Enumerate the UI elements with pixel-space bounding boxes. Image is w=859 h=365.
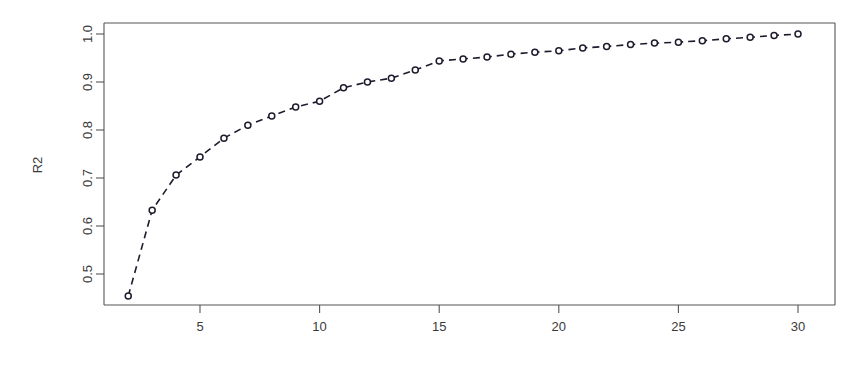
data-point-marker [699, 38, 705, 44]
x-tick-label: 20 [552, 319, 566, 334]
y-tick-label: 0.8 [80, 121, 95, 139]
data-point-marker [747, 34, 753, 40]
r2-series-markers [125, 31, 801, 299]
data-point-marker [269, 113, 275, 119]
data-point-marker [580, 45, 586, 51]
data-point-marker [436, 58, 442, 64]
data-point-marker [795, 31, 801, 37]
data-point-marker [388, 75, 394, 81]
y-tick-label: 0.9 [80, 73, 95, 91]
x-tick-label: 10 [312, 319, 326, 334]
data-point-marker [532, 49, 538, 55]
chart-canvas: 0.50.60.70.80.91.0 51015202530 R2 [0, 0, 859, 365]
data-point-marker [556, 48, 562, 54]
r2-line-chart: 0.50.60.70.80.91.0 51015202530 R2 [0, 0, 859, 365]
data-point-marker [317, 98, 323, 104]
data-point-marker [197, 154, 203, 160]
data-point-marker [651, 40, 657, 46]
data-point-marker [771, 32, 777, 38]
data-point-marker [173, 172, 179, 178]
data-point-marker [341, 85, 347, 91]
data-point-marker [628, 42, 634, 48]
data-point-marker [125, 293, 131, 299]
x-tick-label: 15 [432, 319, 446, 334]
y-axis-ticks: 0.50.60.70.80.91.0 [80, 25, 104, 283]
data-point-marker [508, 51, 514, 57]
y-tick-label: 0.6 [80, 217, 95, 235]
data-point-marker [245, 122, 251, 128]
data-point-marker [604, 43, 610, 49]
x-tick-label: 5 [196, 319, 203, 334]
y-tick-label: 0.5 [80, 265, 95, 283]
data-point-marker [675, 39, 681, 45]
y-tick-label: 0.7 [80, 169, 95, 187]
x-tick-label: 25 [671, 319, 685, 334]
data-point-marker [484, 54, 490, 60]
data-point-marker [364, 79, 370, 85]
data-point-marker [723, 36, 729, 42]
data-point-marker [221, 135, 227, 141]
y-axis-title: R2 [30, 157, 45, 174]
data-point-marker [460, 56, 466, 62]
data-point-marker [149, 207, 155, 213]
x-axis-ticks: 51015202530 [196, 305, 805, 334]
r2-series-line [128, 34, 798, 296]
data-point-marker [412, 67, 418, 73]
x-tick-label: 30 [791, 319, 805, 334]
y-tick-label: 1.0 [80, 25, 95, 43]
data-point-marker [293, 104, 299, 110]
